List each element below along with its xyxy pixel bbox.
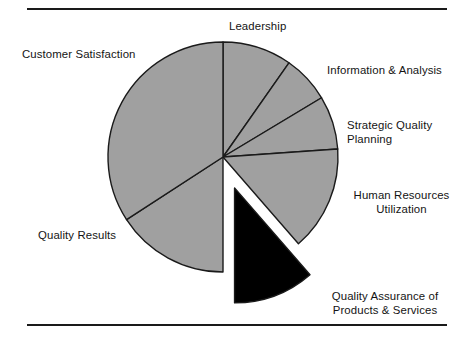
slice-label-information-analysis: Information & Analysis [327,64,442,78]
slice-label-customer-satisfaction: Customer Satisfaction [22,48,136,62]
slice-label-human-resources-utilization: Human Resources Utilization [344,189,459,216]
slice-label-leadership: Leadership [229,20,286,34]
slice-label-strategic-quality-planning: Strategic Quality Planning [347,119,432,146]
slice-label-quality-results: Quality Results [38,229,116,243]
slice-label-quality-assurance: Quality Assurance of Products & Services [310,290,460,317]
pie-slice-group [108,42,338,303]
pie-chart-figure: Leadership Customer Satisfaction Informa… [0,0,469,337]
